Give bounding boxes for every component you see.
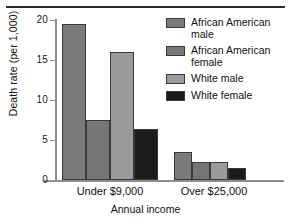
legend-swatch-icon (166, 18, 185, 28)
bar (134, 129, 158, 180)
x-axis-line (44, 180, 284, 182)
bar (62, 24, 86, 180)
y-tick-label-text: 5 (26, 135, 48, 145)
y-tick-label: 10 (26, 95, 48, 105)
chart-figure: 05101520 Death rate (per 1,000) Under $9… (0, 0, 291, 222)
y-axis-title: Death rate (per 1,000) (8, 0, 19, 139)
legend-item-label: African American female (191, 45, 270, 68)
y-tick-label-text: 10 (26, 95, 48, 105)
bar (228, 168, 246, 180)
bar (110, 52, 134, 180)
legend-swatch-icon (166, 74, 185, 84)
y-tick-mark (50, 180, 56, 181)
legend-item-label: White male (191, 73, 244, 85)
bar (174, 152, 192, 180)
legend-item-label: White female (191, 90, 252, 102)
bar (192, 162, 210, 180)
bar (86, 120, 110, 180)
y-tick-label: 0 (26, 175, 48, 185)
y-tick-label-text: 0 (26, 175, 48, 185)
bar (210, 162, 228, 180)
y-tick-label: 20 (26, 15, 48, 25)
legend-item: White male (166, 73, 290, 85)
y-tick-label-text: 20 (26, 15, 48, 25)
y-tick-label-text: 15 (26, 55, 48, 65)
legend-item-label: African American male (191, 17, 270, 40)
legend-swatch-icon (166, 91, 185, 101)
top-divider-rule (6, 6, 285, 8)
y-tick-label: 15 (26, 55, 48, 65)
y-tick-label: 5 (26, 135, 48, 145)
x-category-label: Under $9,000 (50, 185, 170, 197)
legend-item: White female (166, 90, 290, 102)
x-category-label: Over $25,000 (154, 185, 274, 197)
x-axis-title: Annual income (0, 203, 291, 215)
legend-swatch-icon (166, 46, 185, 56)
legend-item: African American male (166, 17, 290, 40)
legend: African American maleAfrican American fe… (166, 17, 290, 106)
legend-item: African American female (166, 45, 290, 68)
